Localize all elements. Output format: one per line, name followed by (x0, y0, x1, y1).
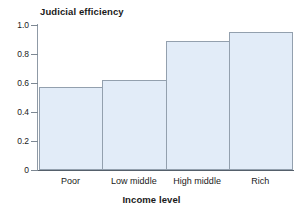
y-axis-tick (31, 170, 38, 171)
y-axis-tick-label: 0 (3, 166, 29, 175)
y-axis-tick-label: 0.4 (3, 108, 29, 117)
bar (102, 80, 166, 170)
y-axis-tick (31, 141, 38, 142)
y-axis-tick-label: 1.0 (3, 21, 29, 30)
x-axis-tick-label: High middle (166, 176, 229, 187)
y-axis-tick-label-wrap: 0.4 (0, 108, 29, 117)
x-axis-tick-label: Poor (39, 176, 102, 187)
y-axis-tick-label-wrap: 1.0 (0, 21, 29, 30)
y-axis-tick-label: 0.2 (3, 137, 29, 146)
y-axis-tick (31, 54, 38, 55)
x-axis-line (31, 170, 294, 171)
bar (166, 41, 230, 170)
y-axis-tick (31, 25, 38, 26)
y-axis-tick-label-wrap: 0 (0, 166, 29, 175)
bar-chart: Judicial efficiency 00.20.40.60.81.0 Poo… (0, 0, 303, 213)
y-axis-tick (31, 83, 38, 84)
y-axis-tick-label: 0.8 (3, 50, 29, 59)
y-axis-tick (31, 112, 38, 113)
bar (39, 87, 103, 170)
y-axis-tick-label-wrap: 0.8 (0, 50, 29, 59)
y-axis-title: Judicial efficiency (40, 6, 124, 18)
x-axis-title: Income level (0, 194, 303, 205)
x-axis-tick-label: Rich (229, 176, 292, 187)
plot-area (39, 25, 292, 170)
y-axis-tick-label-wrap: 0.6 (0, 79, 29, 88)
y-axis-tick-label-wrap: 0.2 (0, 137, 29, 146)
x-axis-tick-label: Low middle (102, 176, 165, 187)
y-axis-line (37, 24, 38, 171)
y-axis-tick-label: 0.6 (3, 79, 29, 88)
bar (229, 32, 293, 170)
